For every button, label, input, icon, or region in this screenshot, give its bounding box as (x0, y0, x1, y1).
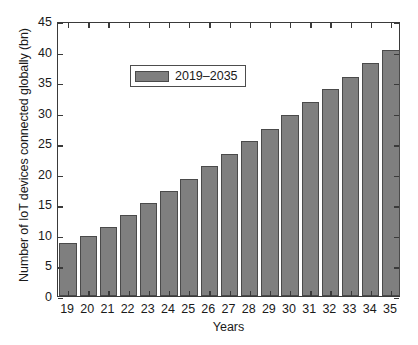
x-tick-label: 27 (214, 302, 244, 316)
bar (59, 243, 76, 296)
x-tick-label: 19 (52, 302, 82, 316)
x-tick-mark-top (88, 23, 89, 28)
plot-area (58, 23, 399, 296)
x-tick-label: 25 (173, 302, 203, 316)
x-tick-mark-top (169, 23, 170, 28)
y-tick-mark-right (394, 176, 399, 177)
bar (80, 236, 97, 296)
x-tick-label: 22 (113, 302, 143, 316)
x-tick-mark-top (371, 23, 372, 28)
y-tick-mark (58, 84, 63, 85)
legend-swatch-icon (135, 71, 169, 82)
x-tick-mark (129, 291, 130, 296)
y-tick-mark-right (394, 237, 399, 238)
y-tick-mark (58, 23, 63, 24)
x-tick-label: 35 (375, 302, 405, 316)
y-tick-mark (58, 145, 63, 146)
x-tick-mark-top (108, 23, 109, 28)
x-tick-label: 30 (274, 302, 304, 316)
x-tick-mark (290, 291, 291, 296)
x-tick-mark-top (129, 23, 130, 28)
y-tick-mark (58, 176, 63, 177)
x-tick-label: 20 (72, 302, 102, 316)
y-tick-mark-right (394, 298, 399, 299)
bar (302, 102, 319, 296)
x-tick-mark-top (330, 23, 331, 28)
y-tick-mark-right (394, 115, 399, 116)
y-tick-mark-right (394, 206, 399, 207)
x-tick-mark-top (310, 23, 311, 28)
chart-legend: 2019–2035 (130, 65, 246, 87)
y-tick-mark (58, 237, 63, 238)
x-tick-mark (250, 291, 251, 296)
bar (281, 115, 298, 296)
x-tick-mark (230, 291, 231, 296)
y-axis-title: Number of IoT devices connected globally… (14, 10, 34, 300)
y-tick-mark (58, 54, 63, 55)
bar (362, 63, 379, 296)
chart-figure: Number of IoT devices connected globally… (0, 0, 418, 345)
x-tick-mark-top (290, 23, 291, 28)
x-tick-mark-top (391, 23, 392, 28)
x-tick-label: 28 (234, 302, 264, 316)
bar (140, 203, 157, 296)
y-tick-mark-right (394, 23, 399, 24)
plot-box: 2019–2035 (57, 22, 400, 297)
y-tick-mark-right (394, 84, 399, 85)
x-tick-mark (108, 291, 109, 296)
x-tick-mark (68, 291, 69, 296)
bar (261, 129, 278, 296)
x-tick-mark-top (250, 23, 251, 28)
x-tick-mark-top (270, 23, 271, 28)
bar (201, 166, 218, 296)
x-tick-mark (351, 291, 352, 296)
x-tick-mark (330, 291, 331, 296)
x-tick-mark-top (68, 23, 69, 28)
x-tick-label: 21 (92, 302, 122, 316)
x-tick-label: 32 (314, 302, 344, 316)
x-tick-mark-top (149, 23, 150, 28)
bar (221, 154, 238, 296)
y-tick-mark (58, 267, 63, 268)
x-tick-mark (371, 291, 372, 296)
x-tick-mark (88, 291, 89, 296)
bar (342, 77, 359, 296)
bar (160, 191, 177, 296)
x-tick-mark (189, 291, 190, 296)
x-tick-label: 24 (153, 302, 183, 316)
x-tick-mark (209, 291, 210, 296)
x-tick-mark (270, 291, 271, 296)
y-tick-mark-right (394, 145, 399, 146)
x-tick-label: 31 (294, 302, 324, 316)
x-tick-label: 29 (254, 302, 284, 316)
x-axis-title: Years (57, 320, 400, 334)
x-tick-mark (169, 291, 170, 296)
x-tick-mark (149, 291, 150, 296)
x-tick-label: 34 (355, 302, 385, 316)
x-tick-mark-top (230, 23, 231, 28)
bar (382, 50, 399, 296)
y-tick-mark (58, 298, 63, 299)
y-tick-mark (58, 115, 63, 116)
bar (120, 215, 137, 296)
x-tick-mark-top (351, 23, 352, 28)
x-tick-label: 26 (193, 302, 223, 316)
x-tick-label: 23 (133, 302, 163, 316)
x-tick-mark-top (189, 23, 190, 28)
y-tick-mark-right (394, 54, 399, 55)
legend-label: 2019–2035 (175, 69, 238, 83)
bar (241, 141, 258, 296)
x-tick-label: 33 (335, 302, 365, 316)
bar (100, 227, 117, 296)
x-tick-mark (310, 291, 311, 296)
bar (322, 89, 339, 296)
x-tick-mark (391, 291, 392, 296)
y-tick-mark (58, 206, 63, 207)
x-tick-mark-top (209, 23, 210, 28)
bar (180, 179, 197, 296)
y-tick-mark-right (394, 267, 399, 268)
